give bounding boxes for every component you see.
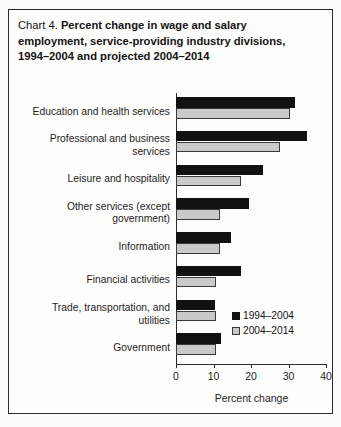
x-tick-label: 30 (274, 370, 304, 382)
x-tick-mark (326, 364, 327, 368)
legend-label: 2004–2014 (243, 324, 294, 339)
bar-series-2 (176, 277, 216, 288)
category-label: Financial activities (20, 274, 170, 286)
x-tick-label: 10 (199, 370, 229, 382)
bar-series-1 (176, 131, 307, 142)
x-tick-label: 40 (311, 370, 341, 382)
chart-figure: Chart 4. Percent change in wage and sala… (0, 0, 341, 427)
bar-series-2 (176, 243, 220, 254)
chart-legend: 1994–20042004–2014 (232, 309, 294, 338)
bar-series-1 (176, 232, 231, 243)
bar-series-1 (176, 300, 215, 311)
bar-series-2 (176, 108, 290, 119)
bar-series-1 (176, 333, 221, 344)
legend-item: 1994–2004 (232, 309, 294, 324)
x-tick-label: 20 (236, 370, 266, 382)
bar-series-1 (176, 266, 241, 277)
chart-title: Chart 4. Percent change in wage and sala… (18, 18, 318, 65)
chart-title-text: Percent change in wage and salary employ… (18, 19, 285, 62)
x-tick-mark (176, 364, 177, 368)
chart-number-label: Chart 4. (18, 19, 58, 31)
x-tick-mark (289, 364, 290, 368)
bar-series-2 (176, 142, 280, 153)
legend-item: 2004–2014 (232, 324, 294, 339)
x-axis-title: Percent change (176, 392, 327, 404)
legend-swatch-icon (232, 312, 240, 320)
category-label: Other services (except government) (20, 201, 170, 226)
bar-series-2 (176, 176, 241, 187)
x-tick-mark (214, 364, 215, 368)
bar-series-2 (176, 311, 216, 322)
category-label: Leisure and hospitality (20, 173, 170, 185)
x-tick-mark (251, 364, 252, 368)
category-label: Information (20, 241, 170, 253)
bar-series-1 (176, 198, 249, 209)
legend-label: 1994–2004 (243, 309, 294, 324)
category-label: Education and health services (20, 106, 170, 118)
x-tick-label: 0 (161, 370, 191, 382)
legend-swatch-icon (232, 327, 240, 335)
category-label: Trade, transportation, and utilities (20, 302, 170, 327)
bar-series-1 (176, 165, 263, 176)
bar-series-2 (176, 344, 216, 355)
bar-series-1 (176, 97, 295, 108)
category-label: Government (20, 342, 170, 354)
bar-series-2 (176, 209, 220, 220)
category-label: Professional and business services (20, 133, 170, 158)
